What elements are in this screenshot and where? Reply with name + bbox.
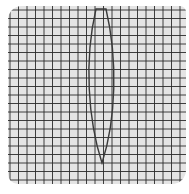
- lens-shape: [89, 9, 114, 163]
- lens-outline: [0, 0, 189, 194]
